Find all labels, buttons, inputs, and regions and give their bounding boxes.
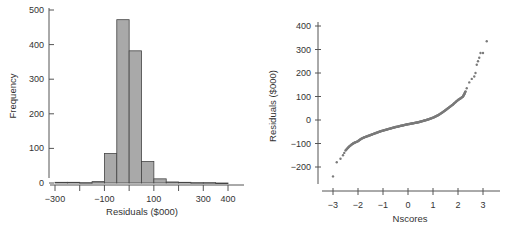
data-point [410, 122, 412, 124]
data-point [379, 130, 381, 132]
data-point [379, 130, 381, 132]
data-point [439, 113, 441, 115]
x-tick-label: 300 [196, 194, 211, 204]
x-tick-label: 400 [220, 194, 235, 204]
data-point [376, 131, 378, 133]
histogram-bar [104, 154, 116, 183]
x-tick-label: −2 [353, 200, 363, 210]
data-point [347, 147, 349, 149]
data-point [455, 101, 457, 103]
histogram-bar [166, 182, 178, 183]
data-point [346, 147, 348, 149]
data-point [375, 132, 377, 134]
data-point [351, 143, 353, 145]
data-point [366, 135, 368, 137]
data-point [390, 127, 392, 129]
data-point [432, 116, 434, 118]
y-tick-label: 300 [296, 45, 311, 55]
data-point [419, 120, 421, 122]
data-point [357, 140, 359, 142]
data-point [380, 130, 382, 132]
data-point [353, 142, 355, 144]
data-point [360, 138, 362, 140]
data-point [420, 120, 422, 122]
data-point [359, 138, 361, 140]
data-point [389, 127, 391, 129]
data-point [352, 142, 354, 144]
data-point [431, 117, 433, 119]
data-point [388, 128, 390, 130]
data-point [392, 126, 394, 128]
data-point [412, 122, 414, 124]
x-tick-label: 3 [480, 200, 485, 210]
y-tick-label: −100 [291, 139, 311, 149]
data-point [405, 123, 407, 125]
data-point [347, 146, 349, 148]
x-tick-label: −1 [378, 200, 388, 210]
data-point [415, 122, 417, 124]
data-point [462, 95, 464, 97]
y-tick-label: 0 [306, 115, 311, 125]
data-point [473, 75, 475, 77]
data-point [344, 149, 346, 151]
data-point [422, 120, 424, 122]
y-tick-label: 200 [29, 109, 44, 119]
data-point [369, 134, 371, 136]
data-point [363, 136, 365, 138]
x-tick-label: 1 [430, 200, 435, 210]
data-point [442, 111, 444, 113]
histogram-bar [55, 182, 67, 183]
data-point [443, 110, 445, 112]
data-point [346, 148, 348, 150]
data-point [402, 124, 404, 126]
data-point [392, 127, 394, 129]
data-point [446, 107, 448, 109]
qq-x-axis-title: Nscores [393, 213, 428, 224]
data-point [457, 99, 459, 101]
data-point [403, 124, 405, 126]
data-point [355, 141, 357, 143]
data-point [421, 120, 423, 122]
data-point [409, 123, 411, 125]
data-point [357, 140, 359, 142]
data-point [364, 136, 366, 138]
data-point [374, 132, 376, 134]
data-point [397, 125, 399, 127]
data-point [378, 131, 380, 133]
data-point [359, 138, 361, 140]
x-tick-label: −3 [328, 200, 338, 210]
data-point [381, 130, 383, 132]
data-point [397, 125, 399, 127]
data-point [381, 130, 383, 132]
histogram-bar [67, 182, 79, 183]
y-tick-label: −200 [291, 162, 311, 172]
data-point [411, 122, 413, 124]
data-point [372, 133, 374, 135]
data-point [413, 122, 415, 124]
x-tick-label: 0 [405, 200, 410, 210]
data-point [383, 129, 385, 131]
data-point [426, 118, 428, 120]
data-point [399, 125, 401, 127]
data-point [414, 122, 416, 124]
data-point [446, 108, 448, 110]
data-point [387, 128, 389, 130]
data-point [461, 96, 463, 98]
data-point [348, 145, 350, 147]
data-point [362, 136, 364, 138]
data-point [438, 113, 440, 115]
data-point [387, 128, 389, 130]
data-point [396, 125, 398, 127]
data-point [353, 142, 355, 144]
data-point [441, 111, 443, 113]
histogram-y-axis-title: Frequency [7, 73, 18, 118]
data-point [368, 134, 370, 136]
data-point [377, 131, 379, 133]
data-point [365, 136, 367, 138]
data-point [416, 121, 418, 123]
data-point [408, 123, 410, 125]
data-point [419, 121, 421, 123]
data-point [421, 120, 423, 122]
data-point [432, 116, 434, 118]
data-point [471, 78, 473, 80]
